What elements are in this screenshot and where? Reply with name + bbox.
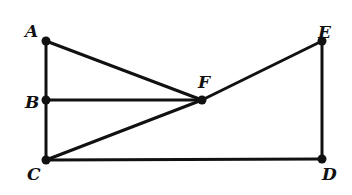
label-C: C [27, 164, 41, 184]
label-F: F [197, 72, 212, 92]
point-F [198, 96, 207, 105]
segment-CD [46, 159, 322, 160]
segment-FE [202, 41, 322, 100]
diagram-canvas: ABCDEF [0, 0, 352, 195]
label-E: E [317, 22, 332, 42]
label-D: D [321, 164, 337, 184]
label-B: B [24, 92, 39, 112]
geometry-diagram: ABCDEF [0, 0, 352, 195]
label-A: A [23, 21, 38, 41]
point-C [42, 156, 51, 165]
point-B [42, 96, 51, 105]
segment-AF [46, 41, 202, 100]
point-D [318, 155, 327, 164]
segment-CF [46, 100, 202, 160]
point-A [42, 37, 51, 46]
